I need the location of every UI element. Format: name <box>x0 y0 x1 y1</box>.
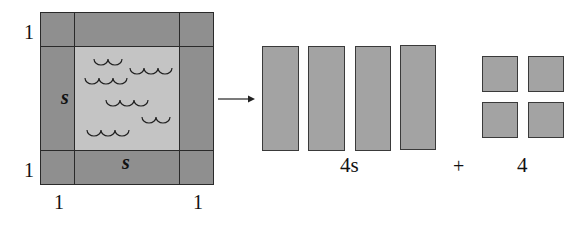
strip-piece <box>308 46 345 151</box>
label-bottom-left-1: 1 <box>24 160 34 180</box>
arrow-right-icon <box>216 93 256 105</box>
label-top-left-1: 1 <box>24 22 34 42</box>
strip-piece <box>355 46 391 151</box>
label-bottom-under-left-1: 1 <box>54 192 64 212</box>
corner-square-piece <box>528 56 564 92</box>
strip-piece <box>262 46 299 151</box>
label-bottom-under-right-1: 1 <box>193 192 203 212</box>
corner-square-piece <box>482 102 518 138</box>
waves-icon <box>74 47 180 151</box>
strip-piece <box>400 45 436 150</box>
label-bottom-strip-s: s <box>122 152 130 172</box>
strips-label: 4s <box>340 155 359 175</box>
plus-sign: + <box>453 156 464 176</box>
corner-square-piece <box>528 102 564 138</box>
corner-square-piece <box>482 56 518 92</box>
label-left-strip-s: s <box>61 87 69 107</box>
squares-label: 4 <box>517 155 528 175</box>
